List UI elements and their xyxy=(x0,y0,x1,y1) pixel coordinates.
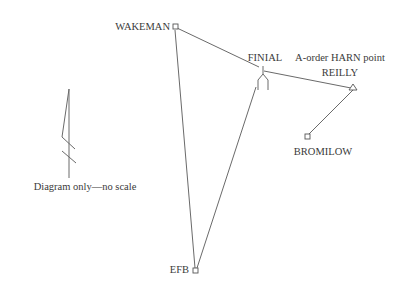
no-scale-note: Diagram only—no scale xyxy=(34,181,137,192)
line-reilly-bromilow xyxy=(308,90,353,135)
efb-square-marker xyxy=(193,268,198,273)
finial-marker-icon xyxy=(258,66,268,90)
wakeman-square-marker xyxy=(173,24,178,29)
line-efb-finial xyxy=(197,87,256,268)
bromilow-label: BROMILOW xyxy=(294,146,352,157)
north-arrow-icon xyxy=(62,89,76,178)
finial-label: FINIAL xyxy=(248,52,282,63)
reilly-sublabel: A-order HARN point xyxy=(295,52,385,63)
reilly-triangle-marker xyxy=(349,84,357,90)
line-wakeman-efb xyxy=(175,30,195,268)
line-wakeman-finial xyxy=(177,28,259,67)
efb-label: EFB xyxy=(170,264,189,275)
bromilow-square-marker xyxy=(305,134,310,139)
survey-diagram: WAKEMAN FINIAL A-order HARN point REILLY… xyxy=(0,0,412,292)
wakeman-label: WAKEMAN xyxy=(115,21,170,32)
reilly-label: REILLY xyxy=(322,67,359,78)
